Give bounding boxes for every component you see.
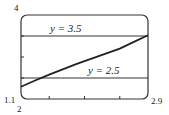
chart: y = 3.5 y = 2.5 4 1.1 2 2.9 — [0, 0, 169, 115]
y-min-label: 2 — [17, 104, 22, 114]
y-max-label: 4 — [14, 3, 19, 13]
function-curve — [21, 35, 148, 87]
plot-frame — [21, 15, 148, 99]
x-min-label: 1.1 — [4, 95, 15, 105]
x-max-label: 2.9 — [151, 96, 163, 106]
label-y-2-5: y = 2.5 — [87, 64, 120, 76]
label-y-3-5: y = 3.5 — [49, 22, 82, 34]
